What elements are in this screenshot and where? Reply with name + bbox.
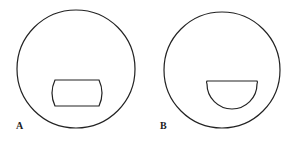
diagram-canvas (0, 0, 303, 141)
panel-b-label: B (160, 121, 167, 131)
panel-b (164, 12, 280, 128)
panel-a-inner-shape (52, 80, 102, 106)
panel-b-inner-semicircle (207, 81, 258, 109)
panel-a (17, 10, 135, 128)
panel-a-label: A (16, 121, 23, 131)
panel-a-outer-circle (17, 10, 135, 128)
panel-b-outer-circle (164, 12, 280, 128)
